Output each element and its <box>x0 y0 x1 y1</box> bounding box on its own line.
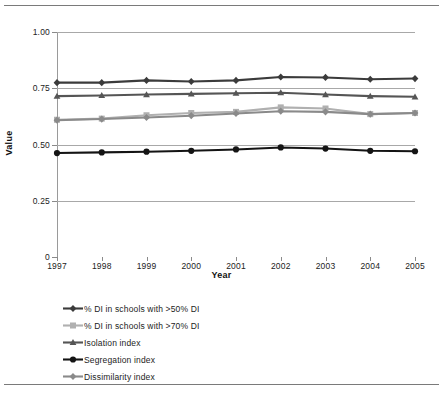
data-point-marker <box>188 148 194 154</box>
plot-area: 00.250.500.751.00 1997199819992000200120… <box>57 32 415 257</box>
y-tick-label: 0.25 <box>33 196 50 206</box>
y-tick-label: 0.75 <box>33 83 50 93</box>
data-point-marker <box>412 148 418 154</box>
data-point-marker <box>143 149 149 155</box>
legend-label: Dissimilarity index <box>84 372 155 382</box>
data-point-marker <box>54 150 60 156</box>
triangle-marker-icon <box>62 334 84 351</box>
data-point-marker <box>99 149 105 155</box>
series-4 <box>54 144 418 156</box>
data-point-marker <box>70 323 76 329</box>
y-tick-label: 1.00 <box>33 27 50 37</box>
data-point-marker <box>70 305 77 312</box>
data-point-marker <box>70 373 77 380</box>
x-tick-label: 2001 <box>226 261 246 271</box>
legend-item[interactable]: % DI in schools with >50% DI <box>62 300 362 317</box>
data-point-marker <box>98 79 105 86</box>
series-1 <box>54 73 419 86</box>
x-tick-label: 2000 <box>181 261 201 271</box>
data-point-marker <box>54 79 61 86</box>
data-point-marker <box>412 75 419 82</box>
data-point-marker <box>233 146 239 152</box>
data-point-marker <box>188 78 195 85</box>
legend-label: Segregation index <box>84 355 155 365</box>
data-point-marker <box>233 77 240 84</box>
data-series-group <box>57 32 415 257</box>
legend-item[interactable]: % DI in schools with >70% DI <box>62 317 362 334</box>
square-marker-icon <box>62 317 84 334</box>
y-axis-title: Value <box>4 130 14 155</box>
top-divider-rule <box>4 5 439 6</box>
legend-label: % DI in schools with >70% DI <box>84 321 199 331</box>
legend-item[interactable]: Isolation index <box>62 334 362 351</box>
x-tick-label: 2003 <box>316 261 336 271</box>
data-point-marker <box>322 145 328 151</box>
legend-item[interactable]: Dissimilarity index <box>62 368 362 385</box>
series-5 <box>54 108 419 124</box>
data-point-marker <box>70 356 76 362</box>
x-tick-label: 1999 <box>137 261 157 271</box>
x-axis-title: Year <box>0 270 443 280</box>
legend-item[interactable]: Segregation index <box>62 351 362 368</box>
y-tick-label: 0.50 <box>33 140 50 150</box>
data-point-marker <box>322 74 329 81</box>
data-point-marker <box>367 76 374 83</box>
x-tick-label: 2005 <box>405 261 425 271</box>
diamond-marker-icon <box>62 300 84 317</box>
diamond-marker-icon <box>62 368 84 385</box>
legend-label: % DI in schools with >50% DI <box>84 304 199 314</box>
chart-legend: % DI in schools with >50% DI% DI in scho… <box>62 300 362 385</box>
x-tick-label: 2002 <box>271 261 291 271</box>
data-point-marker <box>278 144 284 150</box>
figure-container: Value Year 00.250.500.751.00 19971998199… <box>0 0 443 396</box>
x-tick-label: 1998 <box>92 261 112 271</box>
line-chart: Value Year 00.250.500.751.00 19971998199… <box>0 18 443 278</box>
data-point-marker <box>367 148 373 154</box>
circle-marker-icon <box>62 351 84 368</box>
data-point-marker <box>277 73 284 80</box>
series-3 <box>54 89 419 99</box>
x-tick-label: 1997 <box>47 261 67 271</box>
legend-label: Isolation index <box>84 338 141 348</box>
x-tick-label: 2004 <box>360 261 380 271</box>
data-point-marker <box>143 77 150 84</box>
